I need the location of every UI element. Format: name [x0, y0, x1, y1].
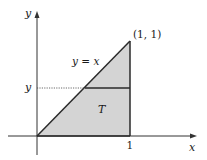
triangle-region-diagram: y x 1 y (1, 1) y = x T [0, 0, 207, 160]
x-axis-label: x [189, 141, 196, 154]
line-equation-label: y = x [71, 55, 99, 67]
x-tick-label-one: 1 [127, 139, 134, 151]
vertex-label: (1, 1) [133, 28, 161, 40]
y-level-label: y [24, 81, 32, 94]
x-axis-arrow-icon [190, 134, 197, 139]
y-axis-label: y [24, 7, 32, 20]
y-axis-arrow-icon [35, 11, 40, 18]
